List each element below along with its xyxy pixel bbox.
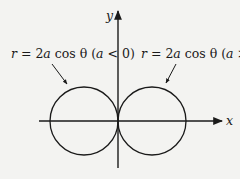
left-curve-label: r = 2a cos θ (a < 0) (11, 46, 135, 61)
y-axis-label: y (105, 8, 114, 23)
x-axis-label: x (226, 113, 233, 128)
polar-diagram: y x r = 2a cos θ (a < 0) r = 2a cos θ (a… (0, 0, 240, 179)
right-label-pointer-arrow (166, 64, 176, 83)
left-label-pointer-arrow (52, 64, 67, 84)
right-curve-label: r = 2a cos θ (a > 0) (141, 46, 240, 61)
